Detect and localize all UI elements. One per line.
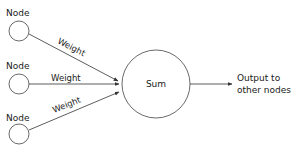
output-label-line2: other nodes <box>237 85 291 95</box>
sum-node-label: Sum <box>146 79 166 89</box>
input-node-2-label: Node <box>6 61 30 71</box>
input-node-3-circle <box>9 124 29 144</box>
edge-2-weight-label: Weight <box>51 73 81 83</box>
weighted-edge-3: Weight <box>29 92 119 130</box>
output: Output to other nodes <box>190 73 291 95</box>
sum-node: Sum <box>122 50 190 118</box>
output-label-line1: Output to <box>237 73 281 83</box>
input-node-1-circle <box>9 21 29 41</box>
input-node-3-label: Node <box>6 113 30 123</box>
input-node-3: Node <box>6 113 30 144</box>
input-node-2: Node <box>6 61 30 94</box>
edge-1-weight-label: Weight <box>56 36 88 59</box>
input-node-2-circle <box>9 74 29 94</box>
input-node-1-label: Node <box>6 8 30 18</box>
neuron-diagram: Node Node Node Weight Weight Weight Sum … <box>0 0 292 157</box>
input-node-1: Node <box>6 8 30 41</box>
edge-3-weight-label: Weight <box>51 94 83 115</box>
